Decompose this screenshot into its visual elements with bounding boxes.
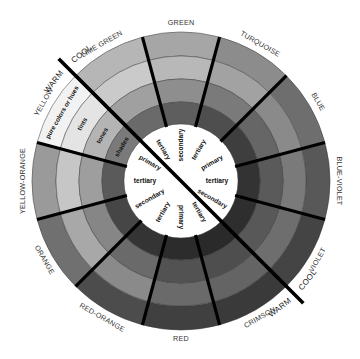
segment-label-blue-violet: BLUE-VIOLET bbox=[335, 157, 344, 206]
ring-3 bbox=[155, 257, 208, 283]
segment-label-red: RED bbox=[173, 334, 189, 343]
ring-3 bbox=[257, 155, 283, 208]
ring-2 bbox=[149, 56, 214, 82]
segment-label-blue: BLUE bbox=[310, 91, 328, 112]
ring-3 bbox=[155, 79, 208, 105]
segment-label-yellow-orange: YELLOW-ORANGE bbox=[18, 148, 27, 214]
ring-3 bbox=[79, 155, 105, 208]
segment-label-green: GREEN bbox=[168, 18, 195, 27]
ring-2 bbox=[149, 280, 214, 306]
hub-label-tertiary: tertiary bbox=[206, 177, 229, 185]
hub-label-secondary: secondary bbox=[177, 128, 185, 161]
hub-label-tertiary: tertiary bbox=[134, 177, 157, 185]
ring-2 bbox=[280, 149, 306, 214]
ring-2 bbox=[56, 149, 82, 214]
hub-label-primary: primary bbox=[177, 205, 185, 230]
color-wheel-diagram: secondarytertiaryprimarytertiarysecondar… bbox=[0, 0, 360, 359]
